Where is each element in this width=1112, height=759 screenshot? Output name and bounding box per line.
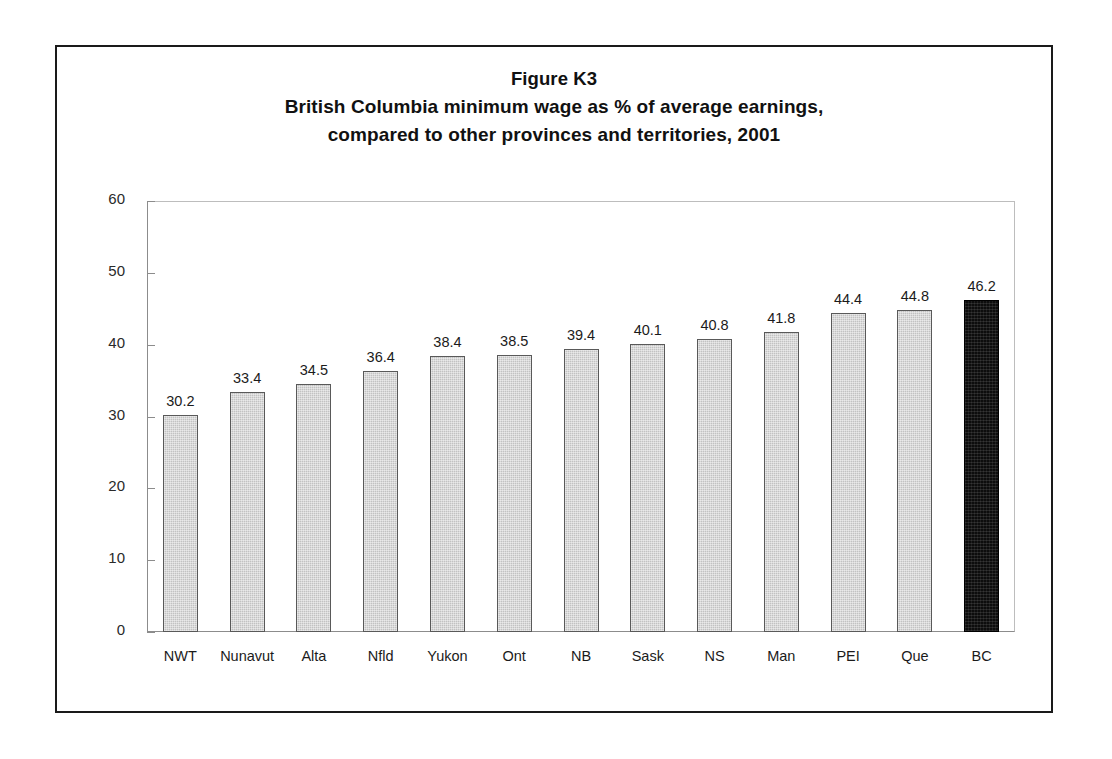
- bar-alta[interactable]: [296, 384, 331, 632]
- bar-group[interactable]: 36.4Nfld: [363, 201, 398, 632]
- figure-title-block: Figure K3 British Columbia minimum wage …: [57, 65, 1051, 149]
- bar-nunavut[interactable]: [230, 392, 265, 632]
- bar-pei[interactable]: [831, 313, 866, 632]
- bar-group[interactable]: 46.2BC: [964, 201, 999, 632]
- bar-bc[interactable]: [964, 300, 999, 632]
- bar-chart-plot: 0102030405060 30.2NWT33.4Nunavut34.5Alta…: [147, 201, 1015, 632]
- figure-title-line-1: Figure K3: [57, 65, 1051, 93]
- bar-group[interactable]: 30.2NWT: [163, 201, 198, 632]
- bar-ont[interactable]: [497, 355, 532, 632]
- bar-group[interactable]: 44.8Que: [897, 201, 932, 632]
- y-axis-tick-label: 30: [108, 406, 125, 423]
- y-axis-tick-label: 50: [108, 262, 125, 279]
- bar-yukon[interactable]: [430, 356, 465, 632]
- bar-group[interactable]: 33.4Nunavut: [230, 201, 265, 632]
- bar-group[interactable]: 38.5Ont: [497, 201, 532, 632]
- bar-man[interactable]: [764, 332, 799, 632]
- bar-nb[interactable]: [564, 349, 599, 632]
- y-axis-tick-label: 40: [108, 334, 125, 351]
- figure-frame: Figure K3 British Columbia minimum wage …: [55, 45, 1053, 713]
- x-axis-category-label: BC: [938, 648, 1025, 664]
- bar-group[interactable]: 34.5Alta: [296, 201, 331, 632]
- bars-layer: 30.2NWT33.4Nunavut34.5Alta36.4Nfld38.4Yu…: [147, 201, 1015, 632]
- bar-value-label: 36.4: [341, 349, 420, 365]
- figure-title-line-3: compared to other provinces and territor…: [57, 121, 1051, 149]
- bar-value-label: 41.8: [742, 310, 821, 326]
- bar-group[interactable]: 40.8NS: [697, 201, 732, 632]
- bar-group[interactable]: 38.4Yukon: [430, 201, 465, 632]
- bar-value-label: 46.2: [942, 278, 1021, 294]
- y-axis-tick-label: 0: [117, 621, 125, 638]
- bar-value-label: 34.5: [274, 362, 353, 378]
- y-axis-tick-mark: [147, 632, 155, 633]
- bar-nfld[interactable]: [363, 371, 398, 632]
- bar-ns[interactable]: [697, 339, 732, 632]
- y-axis-tick-label: 10: [108, 549, 125, 566]
- bar-group[interactable]: 41.8Man: [764, 201, 799, 632]
- y-axis-tick-label: 60: [108, 190, 125, 207]
- bar-group[interactable]: 40.1Sask: [630, 201, 665, 632]
- figure-title-line-2: British Columbia minimum wage as % of av…: [57, 93, 1051, 121]
- y-axis-tick-label: 20: [108, 477, 125, 494]
- bar-que[interactable]: [897, 310, 932, 632]
- bar-sask[interactable]: [630, 344, 665, 632]
- bar-value-label: 30.2: [141, 393, 220, 409]
- bar-group[interactable]: 44.4PEI: [831, 201, 866, 632]
- bar-nwt[interactable]: [163, 415, 198, 632]
- bar-group[interactable]: 39.4NB: [564, 201, 599, 632]
